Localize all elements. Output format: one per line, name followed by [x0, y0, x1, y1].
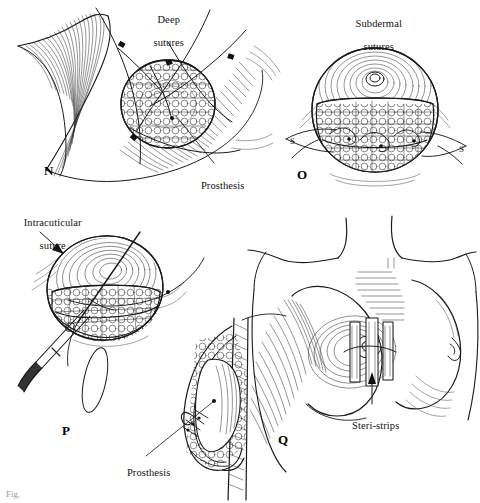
panel-letter-p: P [62, 423, 70, 439]
subdermal-sutures-label: Subdermal sutures [326, 6, 426, 52]
illustration-plate: S S [0, 0, 480, 503]
prosthesis-p-text: Prosthesis [127, 467, 171, 478]
intracuticular-suture-label: Intracuticular suture [2, 205, 98, 251]
intracuticular-line1: Intracuticular [24, 217, 82, 228]
svg-text:S: S [459, 144, 464, 154]
subdermal-line1: Subdermal [356, 18, 402, 29]
prosthesis-label-p: Prosthesis [104, 455, 188, 478]
svg-text:S: S [290, 136, 295, 146]
panel-letter-o: O [297, 167, 307, 183]
panel-o-artwork: S S [286, 42, 466, 186]
deep-sutures-line1: Deep [157, 14, 180, 25]
caption-text: Fig. [6, 491, 20, 499]
prosthesis-label-n: Prosthesis [178, 168, 262, 191]
deep-sutures-line2: sutures [154, 37, 184, 48]
prosthesis-n-text: Prosthesis [201, 180, 245, 191]
panel-letter-q: Q [278, 432, 288, 448]
cropped-caption: Fig. [0, 491, 480, 503]
subdermal-line2: sutures [364, 41, 394, 52]
deep-sutures-label: Deep sutures [120, 2, 212, 48]
steri-strips-text: Steri-strips [352, 420, 399, 431]
steri-strips-label: Steri-strips [330, 408, 416, 431]
panel-letter-n: N [44, 163, 53, 179]
intracuticular-line2: suture [40, 240, 66, 251]
